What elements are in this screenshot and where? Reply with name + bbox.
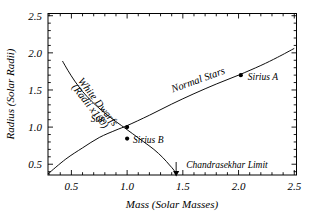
data-point-label-sirius-b: Sirius B bbox=[133, 135, 164, 145]
data-curves bbox=[48, 48, 294, 174]
x-axis-title: Mass (Solar Masses) bbox=[125, 198, 219, 211]
data-point-sun bbox=[125, 125, 129, 129]
x-tick-label: 1.5 bbox=[176, 180, 190, 192]
y-axis-title: Radius (Solar Radii) bbox=[4, 48, 17, 140]
y-tick-label: 1.0 bbox=[28, 121, 42, 133]
data-point-sirius-b bbox=[125, 137, 129, 141]
y-tick-label: 2.0 bbox=[28, 47, 42, 59]
data-point-label-sirius-a: Sirius A bbox=[248, 72, 278, 82]
x-tick-label: 2.0 bbox=[232, 180, 246, 192]
down-arrow-icon bbox=[173, 171, 179, 177]
annotation-label-chandrasekhar-limit: Chandrasekhar Limit bbox=[186, 160, 268, 170]
y-tick-label: 0.5 bbox=[28, 158, 42, 170]
data-point-sirius-a bbox=[239, 73, 243, 77]
data-point-label-sun: Sun bbox=[91, 114, 106, 124]
curve-normal-stars bbox=[48, 48, 294, 173]
curve-white-dwarfs bbox=[62, 61, 176, 175]
y-tick-label: 1.5 bbox=[28, 84, 42, 96]
figure-mass-radius-diagram: 0.51.01.52.02.50.51.01.52.02.5 White Dwa… bbox=[0, 0, 315, 214]
curve-label-normal-stars: Normal Stars bbox=[169, 65, 227, 95]
y-tick-label: 2.5 bbox=[28, 10, 42, 22]
x-tick-label: 1.0 bbox=[120, 180, 134, 192]
x-tick-label: 2.5 bbox=[287, 180, 301, 192]
annotations: Chandrasekhar Limit bbox=[173, 160, 268, 177]
x-tick-label: 0.5 bbox=[65, 180, 79, 192]
plot-canvas: 0.51.01.52.02.50.51.01.52.02.5 White Dwa… bbox=[0, 0, 315, 214]
